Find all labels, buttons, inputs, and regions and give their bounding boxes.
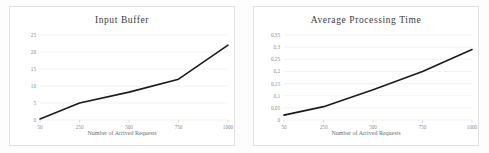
plot-area: 00,050,10,150,20,250,30,3550250500750100… [254, 7, 480, 147]
chart-card-average-processing-time: Average Processing Time 00,050,10,150,20… [244, 0, 488, 153]
plot-svg-average-processing-time [254, 7, 480, 147]
data-series-line [40, 45, 228, 119]
x-axis-title: Number of Arrived Requests [10, 130, 234, 136]
plot-svg-input-buffer [10, 7, 236, 147]
x-axis-title: Number of Arrived Requests [254, 130, 478, 136]
charts-page: Input Buffer 0510152025502505007501000 N… [0, 0, 489, 153]
chart-frame: Input Buffer 0510152025502505007501000 N… [9, 6, 235, 146]
chart-frame: Average Processing Time 00,050,10,150,20… [253, 6, 479, 146]
plot-area: 0510152025502505007501000 [10, 7, 236, 147]
chart-card-input-buffer: Input Buffer 0510152025502505007501000 N… [0, 0, 244, 153]
